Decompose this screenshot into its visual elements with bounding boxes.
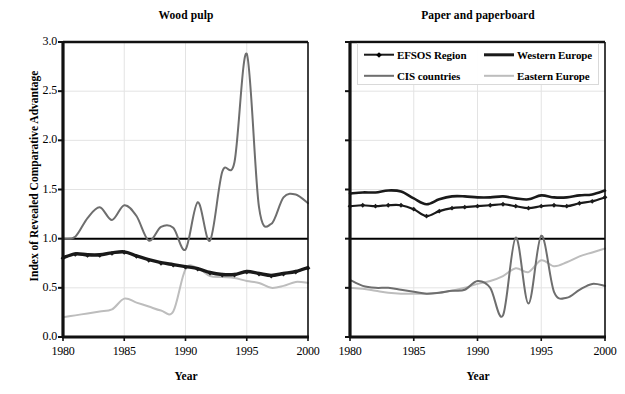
y-tick-label: 1.0 (13, 231, 57, 246)
legend-item-eastern-europe: Eastern Europe (478, 70, 598, 82)
legend-swatch-cis-countries (364, 71, 394, 81)
legend-item-efsos-region: EFSOS Region (358, 49, 478, 61)
y-tick-label: 2.5 (13, 83, 57, 98)
x-axis-label-left: Year (63, 370, 309, 382)
legend-swatch-eastern-europe (484, 71, 514, 81)
y-tick-label: 3.0 (13, 34, 57, 49)
x-tick-label: 1980 (39, 344, 87, 359)
y-tick-label: 0.5 (13, 280, 57, 295)
legend-label-cis-countries: CIS countries (397, 70, 460, 82)
legend-item-western-europe: Western Europe (478, 49, 598, 61)
legend-row-2: CIS countries Eastern Europe (358, 65, 598, 86)
x-tick-label: 1990 (454, 344, 502, 359)
x-tick-label: 2000 (581, 344, 625, 359)
legend-item-cis-countries: CIS countries (358, 70, 478, 82)
x-tick-label: 1985 (100, 344, 148, 359)
y-tick-label: 2.0 (13, 132, 57, 147)
x-tick-label: 1990 (162, 344, 210, 359)
legend-label-western-europe: Western Europe (517, 49, 592, 61)
y-tick-label: 1.5 (13, 182, 57, 197)
x-tick-label: 1985 (390, 344, 438, 359)
y-tick-label: 0.0 (13, 329, 57, 344)
figure-root: Wood pulp Paper and paperboard Index of … (0, 0, 625, 394)
chart-legend: EFSOS Region Western Europe CIS countrie… (357, 43, 599, 85)
legend-swatch-efsos-region (364, 50, 394, 60)
legend-label-efsos-region: EFSOS Region (397, 49, 466, 61)
legend-row-1: EFSOS Region Western Europe (358, 44, 598, 65)
legend-swatch-western-europe (484, 50, 514, 60)
x-tick-label: 1980 (326, 344, 374, 359)
x-tick-label: 2000 (284, 344, 332, 359)
legend-label-eastern-europe: Eastern Europe (517, 70, 590, 82)
x-tick-label: 1995 (517, 344, 565, 359)
x-axis-label-right: Year (350, 370, 606, 382)
x-tick-label: 1995 (223, 344, 271, 359)
